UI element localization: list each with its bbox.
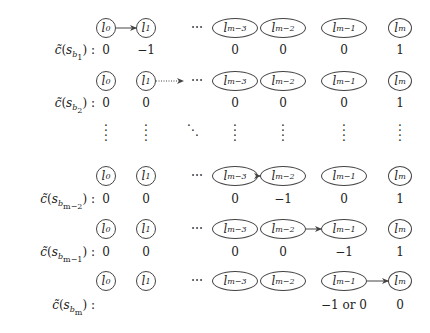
arrows-layer	[0, 0, 430, 333]
